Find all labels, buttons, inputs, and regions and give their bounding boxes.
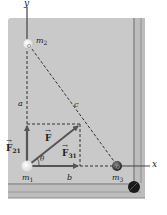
distance-a-label: a [18, 100, 23, 108]
x-axis-label: x [152, 160, 157, 169]
force-f21-label: F21 [6, 144, 21, 154]
billiard-diagram: y x m2 m1 m3 a b c F21 F F31 θ [0, 0, 167, 215]
theta-label: θ [40, 156, 44, 163]
distance-c-label: c [74, 101, 78, 109]
force-f31-label: F31 [62, 149, 77, 159]
right-rail [133, 18, 145, 198]
mass-m2-label: m2 [36, 37, 47, 46]
corner-pocket [128, 181, 140, 193]
force-f-label: F [45, 134, 51, 143]
mass-m3-label: m3 [112, 174, 123, 183]
ball-m1 [22, 161, 33, 172]
mass-m1-label: m1 [22, 174, 33, 183]
bottom-rail [8, 183, 145, 198]
y-axis-label: y [24, 0, 29, 8]
distance-b-label: b [67, 174, 72, 182]
